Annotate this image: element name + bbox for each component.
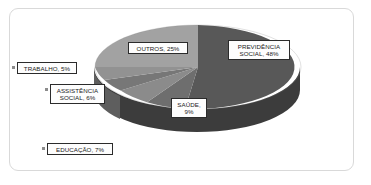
leader-marker-trabalho-icon — [12, 66, 15, 69]
leader-marker-assistencia-icon — [45, 88, 48, 91]
leader-marker-educacao-icon — [42, 147, 45, 150]
data-label-assistencia-social: ASSISTÊNCIA SOCIAL, 6% — [50, 84, 105, 104]
pie-chart-plot-area: PREVIDÊNCIA SOCIAL, 48% OUTROS, 25% SAÚD… — [0, 0, 371, 185]
data-label-saude: SAÚDE, 9% — [171, 98, 207, 118]
data-label-outros: OUTROS, 25% — [128, 42, 188, 54]
data-label-trabalho: TRABALHO, 5% — [17, 62, 77, 74]
data-label-previdencia-social: PREVIDÊNCIA SOCIAL, 48% — [228, 40, 290, 60]
chart-screenshot: PREVIDÊNCIA SOCIAL, 48% OUTROS, 25% SAÚD… — [0, 0, 371, 185]
data-label-educacao: EDUCAÇÃO, 7% — [47, 143, 113, 155]
